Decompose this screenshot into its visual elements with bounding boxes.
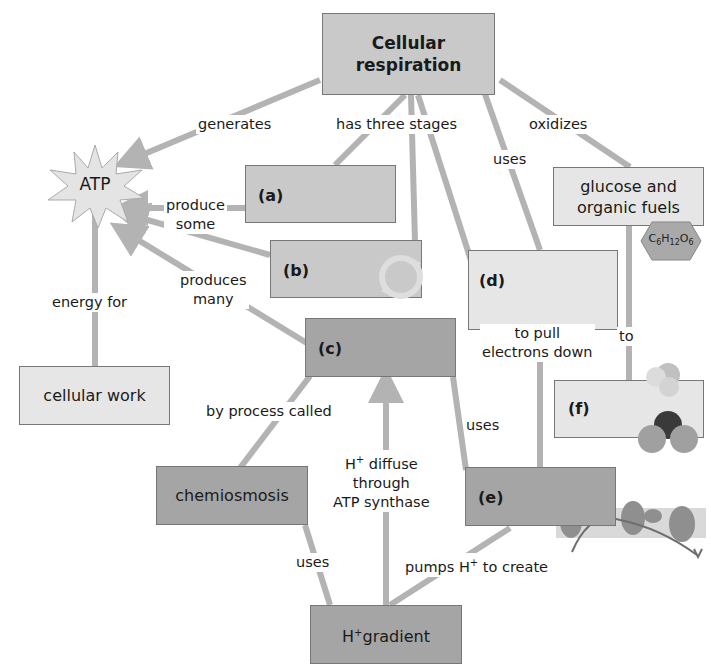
formula-h: H <box>661 232 669 245</box>
formula-h-sub: 12 <box>670 238 680 247</box>
to-pull-line2: electrons down <box>482 343 593 362</box>
h-diffuse-text: diffuse <box>364 456 418 472</box>
molecule-icons <box>630 355 710 465</box>
node-cellular-respiration-line1: Cellular <box>372 32 445 54</box>
fuels-line2: organic fuels <box>577 197 680 218</box>
link-label-has-three-stages: has three stages <box>334 115 459 134</box>
glucose-formula: C6H12O6 <box>640 232 702 247</box>
pumps-suffix: to create <box>478 559 548 575</box>
link-label-to-pull-electrons-down: to pull electrons down <box>480 324 595 362</box>
gradient-plus: + <box>354 627 362 638</box>
h-diffuse-h: H <box>345 456 356 472</box>
link-label-produce-some: produce some <box>164 196 227 234</box>
node-f-label: (f) <box>568 399 590 418</box>
link-label-generates: generates <box>196 115 273 134</box>
node-cellular-respiration-line2: respiration <box>356 54 462 76</box>
to-pull-line1: to pull <box>482 324 593 343</box>
node-h-gradient: H+gradient <box>310 605 462 664</box>
node-c-label: (c) <box>318 339 342 358</box>
fuels-line1: glucose and <box>580 176 677 197</box>
node-b-label: (b) <box>283 261 309 280</box>
node-cellular-work: cellular work <box>19 366 170 425</box>
link-label-uses-mid: uses <box>464 416 501 435</box>
node-d: (d) <box>468 250 618 330</box>
node-a: (a) <box>245 165 396 223</box>
link-label-to: to <box>617 327 636 346</box>
h-gradient-label: H+gradient <box>342 622 430 647</box>
link-label-oxidizes: oxidizes <box>527 115 589 134</box>
pumps-h: pumps H <box>405 559 470 575</box>
node-e-label: (e) <box>478 488 503 507</box>
node-d-label: (d) <box>479 271 505 290</box>
node-glucose-organic-fuels: glucose and organic fuels <box>553 167 704 226</box>
link-label-produces-many: produces many <box>178 271 249 309</box>
link-label-uses-bottom: uses <box>294 553 331 572</box>
gradient-h: H <box>342 627 354 646</box>
node-a-label: (a) <box>258 186 283 205</box>
gradient-text: gradient <box>363 627 430 646</box>
link-label-uses-top: uses <box>491 150 528 169</box>
link-label-by-process-called: by process called <box>204 402 334 421</box>
chemiosmosis-label: chemiosmosis <box>175 485 288 506</box>
node-e: (e) <box>465 467 616 526</box>
node-chemiosmosis: chemiosmosis <box>156 466 308 525</box>
node-cellular-respiration: Cellular respiration <box>322 13 495 95</box>
produces-many-line2: many <box>180 290 247 309</box>
cycle-icon <box>373 249 429 305</box>
cellular-work-label: cellular work <box>43 385 145 406</box>
produces-many-line1: produces <box>180 271 247 290</box>
h-diffuse-line3: ATP synthase <box>333 493 430 512</box>
h-diffuse-line1: H+ diffuse <box>333 450 430 474</box>
pumps-plus: + <box>470 557 478 568</box>
node-c: (c) <box>305 318 456 377</box>
link-label-pumps-h-to-create: pumps H+ to create <box>403 553 550 577</box>
h-diffuse-plus: + <box>356 454 364 465</box>
link-label-energy-for: energy for <box>50 293 129 312</box>
node-b: (b) <box>270 240 422 298</box>
produce-some-line1: produce <box>166 196 225 215</box>
node-atp: ATP <box>40 140 150 230</box>
produce-some-line2: some <box>166 215 225 234</box>
h-diffuse-line2: through <box>333 474 430 493</box>
atp-label: ATP <box>40 174 150 194</box>
glucose-hexagon: C6H12O6 <box>640 220 702 262</box>
link-label-h-diffuse: H+ diffuse through ATP synthase <box>331 450 432 512</box>
formula-o-sub: 6 <box>688 238 693 247</box>
